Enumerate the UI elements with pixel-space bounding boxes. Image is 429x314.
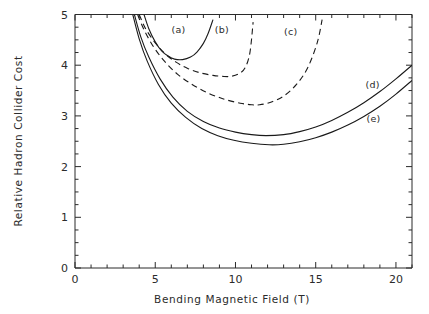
- y-tick-label: 1: [61, 211, 68, 224]
- plot-area: 05101520012345 (a)(b)(c)(d)(e) Bending M…: [0, 0, 429, 314]
- axis-ticks: [75, 15, 412, 269]
- curve-annotations: (a)(b)(c)(d)(e): [171, 24, 380, 124]
- curve-a: [144, 15, 213, 60]
- y-tick-label: 3: [61, 110, 68, 123]
- y-tick-label: 0: [61, 262, 68, 275]
- annotation-c: (c): [284, 26, 298, 37]
- x-tick-label: 0: [72, 273, 79, 286]
- axis-tick-labels: 05101520012345: [61, 9, 403, 287]
- axes: [75, 15, 412, 269]
- curve-b: [139, 15, 253, 77]
- y-tick-label: 2: [61, 161, 68, 174]
- annotation-a: (a): [171, 24, 185, 35]
- annotation-d: (d): [366, 79, 380, 90]
- x-axis-title: Bending Magnetic Field (T): [154, 293, 310, 305]
- chart-figure: 05101520012345 (a)(b)(c)(d)(e) Bending M…: [0, 0, 429, 314]
- annotation-b: (b): [215, 24, 229, 35]
- y-tick-label: 5: [61, 9, 68, 22]
- axes-frame: [75, 15, 412, 269]
- x-tick-label: 10: [228, 273, 242, 286]
- annotation-e: (e): [366, 113, 380, 124]
- x-tick-label: 5: [152, 273, 159, 286]
- x-tick-label: 20: [389, 273, 403, 286]
- y-axis-title: Relative Hadron Collider Cost: [12, 55, 24, 226]
- y-tick-label: 4: [61, 59, 68, 72]
- x-tick-label: 15: [309, 273, 323, 286]
